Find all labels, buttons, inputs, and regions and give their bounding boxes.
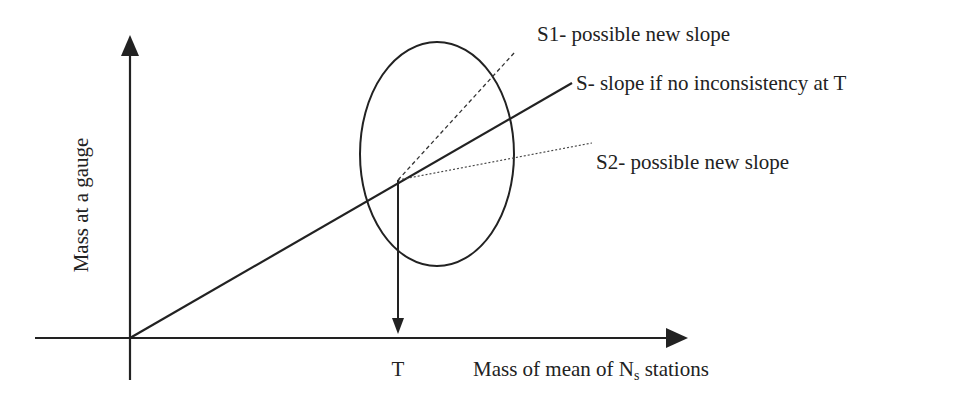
inconsistency-ellipse xyxy=(360,42,514,266)
drop-arrow xyxy=(392,180,404,334)
label-s2: S2- possible new slope xyxy=(596,150,789,174)
y-axis xyxy=(121,35,139,380)
y-axis-arrowhead-icon xyxy=(121,35,139,56)
label-s: S- slope if no inconsistency at T xyxy=(576,71,846,95)
label-s1: S1- possible new slope xyxy=(537,22,730,46)
double-mass-curve-diagram: S1- possible new slope S- slope if no in… xyxy=(0,0,954,395)
x-tick-label-t: T xyxy=(392,357,405,381)
x-axis xyxy=(35,328,688,348)
y-axis-label: Mass at a gauge xyxy=(69,138,93,273)
drop-arrowhead-icon xyxy=(392,318,404,334)
x-axis-label: Mass of mean of Ns stations xyxy=(473,357,709,383)
x-axis-arrowhead-icon xyxy=(666,328,688,348)
line-s xyxy=(130,83,572,338)
